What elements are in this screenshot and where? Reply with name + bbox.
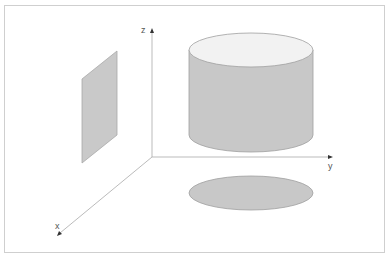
- projection-ellipse: [189, 176, 313, 210]
- diagram-svg: [0, 0, 388, 258]
- cylinder: [189, 33, 313, 152]
- cylinder-top: [189, 33, 313, 67]
- y-axis-label: y: [328, 162, 333, 171]
- z-axis-label: z: [141, 26, 146, 35]
- diagram-canvas: z y x: [0, 0, 388, 258]
- x-axis-label: x: [55, 222, 60, 231]
